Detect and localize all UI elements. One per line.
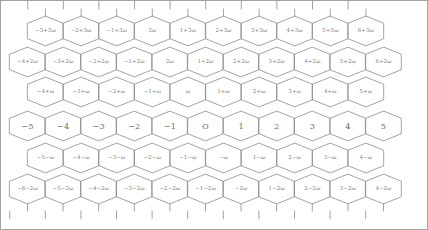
hex-cell-outline xyxy=(241,77,277,107)
hex-cell-outline xyxy=(277,16,313,46)
hex-cell-outline xyxy=(330,111,366,141)
hex-cell-outline xyxy=(206,77,242,107)
hex-cell-outline xyxy=(63,77,99,107)
hex-cell-outline xyxy=(313,143,349,173)
hex-cell-outline xyxy=(259,174,295,204)
hex-lattice-figure: −3+3ω−2+3ω−1+3ω3ω1+3ω2+3ω3+3ω4+3ω5+3ω6+3… xyxy=(0,0,428,230)
hex-cell-outline xyxy=(366,174,402,204)
hex-cell-outline xyxy=(348,143,384,173)
hex-cell-outline xyxy=(170,143,206,173)
hex-cell-outline xyxy=(152,174,188,204)
hex-cell-outline xyxy=(348,77,384,107)
hex-cell-outline xyxy=(223,47,259,77)
hex-cell-outline xyxy=(206,143,242,173)
hex-cell-outline xyxy=(188,47,224,77)
hex-cell-outline xyxy=(10,174,46,204)
hex-cell-outline xyxy=(277,143,313,173)
hex-cell-outline xyxy=(277,77,313,107)
hex-cell-outline xyxy=(259,111,295,141)
hex-cell-outline xyxy=(241,143,277,173)
hex-cell-outline xyxy=(28,16,64,46)
hex-cell-outline xyxy=(366,47,402,77)
hex-cell-outline xyxy=(117,47,153,77)
hex-cell-outline xyxy=(241,16,277,46)
hex-cell-outline xyxy=(135,143,171,173)
hex-cell-outline xyxy=(10,111,46,141)
hex-cell-outline xyxy=(348,16,384,46)
hex-cell-outline xyxy=(152,47,188,77)
hex-cell-outline xyxy=(45,111,81,141)
hex-cell-outline xyxy=(28,77,64,107)
hex-cell-outline xyxy=(313,16,349,46)
hex-cell-outline xyxy=(135,77,171,107)
hex-cell-outline xyxy=(117,174,153,204)
hex-cell-outline xyxy=(81,174,117,204)
hex-cell-outline xyxy=(63,16,99,46)
figure-border xyxy=(1,1,428,230)
hex-cell-outline xyxy=(330,174,366,204)
hex-cell-outline xyxy=(223,174,259,204)
hex-cell-outline xyxy=(10,47,46,77)
hex-cell-outline xyxy=(152,111,188,141)
hex-cell-outline xyxy=(81,111,117,141)
hex-lattice-grid xyxy=(0,0,428,230)
hex-cell-outline xyxy=(81,47,117,77)
hex-cell-outline xyxy=(295,47,331,77)
hex-cell-outline xyxy=(188,174,224,204)
hex-cell-outline xyxy=(330,47,366,77)
hex-cell-outline xyxy=(170,16,206,46)
hex-cell-outline xyxy=(188,111,224,141)
hex-cell-outline xyxy=(223,111,259,141)
hex-cell-outline xyxy=(295,111,331,141)
hex-edge-group xyxy=(10,1,402,219)
hex-cell-outline xyxy=(206,16,242,46)
hex-cell-outline xyxy=(99,143,135,173)
hex-cell-outline xyxy=(366,111,402,141)
hex-cell-outline xyxy=(45,47,81,77)
hex-cell-outline xyxy=(313,77,349,107)
hex-cell-outline xyxy=(135,16,171,46)
hex-cell-outline xyxy=(170,77,206,107)
hex-cell-outline xyxy=(28,143,64,173)
hex-cell-outline xyxy=(63,143,99,173)
hex-cell-outline xyxy=(259,47,295,77)
hex-cell-outline xyxy=(99,77,135,107)
hex-cell-outline xyxy=(117,111,153,141)
hex-cell-outline xyxy=(45,174,81,204)
hex-cell-outline xyxy=(99,16,135,46)
hex-cell-outline xyxy=(295,174,331,204)
